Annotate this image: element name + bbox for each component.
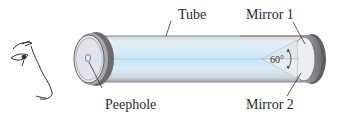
peephole-label: Peephole	[105, 97, 156, 112]
peephole-end-cap	[74, 32, 114, 86]
peephole	[86, 55, 91, 62]
mirror-2-label: Mirror 2	[246, 97, 294, 112]
tube-label: Tube	[178, 7, 206, 22]
eye-face-profile	[11, 41, 52, 99]
mirror-1-label: Mirror 1	[246, 7, 294, 22]
kaleidoscope-diagram: 60° Tube Mirror 1 Mirror 2 Peephole	[0, 0, 348, 122]
angle-label: 60°	[270, 54, 284, 65]
